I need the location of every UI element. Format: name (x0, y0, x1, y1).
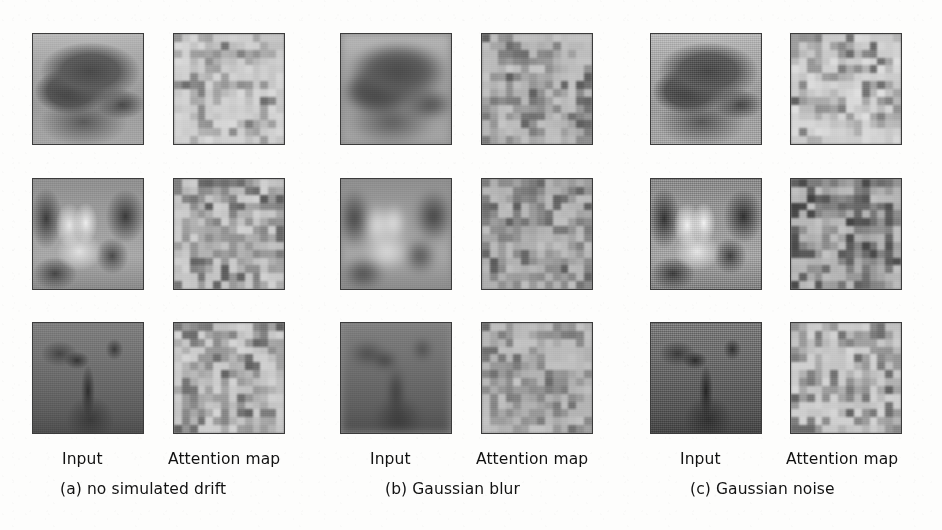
column-label-attention-b: Attention map (476, 450, 588, 468)
figure-attention-drift-grid: Input Attention map (a) no simulated dri… (0, 0, 942, 530)
tile-attention-c-row3 (790, 322, 902, 434)
panel-caption-b: (b) Gaussian blur (385, 480, 520, 498)
tile-attention-b-row3 (481, 322, 593, 434)
column-label-input-c: Input (680, 450, 721, 468)
tile-attention-c-row2 (790, 178, 902, 290)
panel-caption-a: (a) no simulated drift (60, 480, 226, 498)
tile-attention-b-row2 (481, 178, 593, 290)
tile-attention-a-row2 (173, 178, 285, 290)
column-label-input-b: Input (370, 450, 411, 468)
tile-attention-c-row1 (790, 33, 902, 145)
tile-attention-a-row1 (173, 33, 285, 145)
column-label-attention-c: Attention map (786, 450, 898, 468)
tile-attention-b-row1 (481, 33, 593, 145)
tile-input-b-row3 (340, 322, 452, 434)
column-label-attention-a: Attention map (168, 450, 280, 468)
tile-input-b-row2 (340, 178, 452, 290)
tile-input-b-row1 (340, 33, 452, 145)
tile-input-c-row1 (650, 33, 762, 145)
panel-caption-c: (c) Gaussian noise (690, 480, 835, 498)
tile-input-c-row3 (650, 322, 762, 434)
tile-input-a-row3 (32, 322, 144, 434)
tile-input-c-row2 (650, 178, 762, 290)
tile-attention-a-row3 (173, 322, 285, 434)
tile-input-a-row1 (32, 33, 144, 145)
tile-input-a-row2 (32, 178, 144, 290)
column-label-input-a: Input (62, 450, 103, 468)
